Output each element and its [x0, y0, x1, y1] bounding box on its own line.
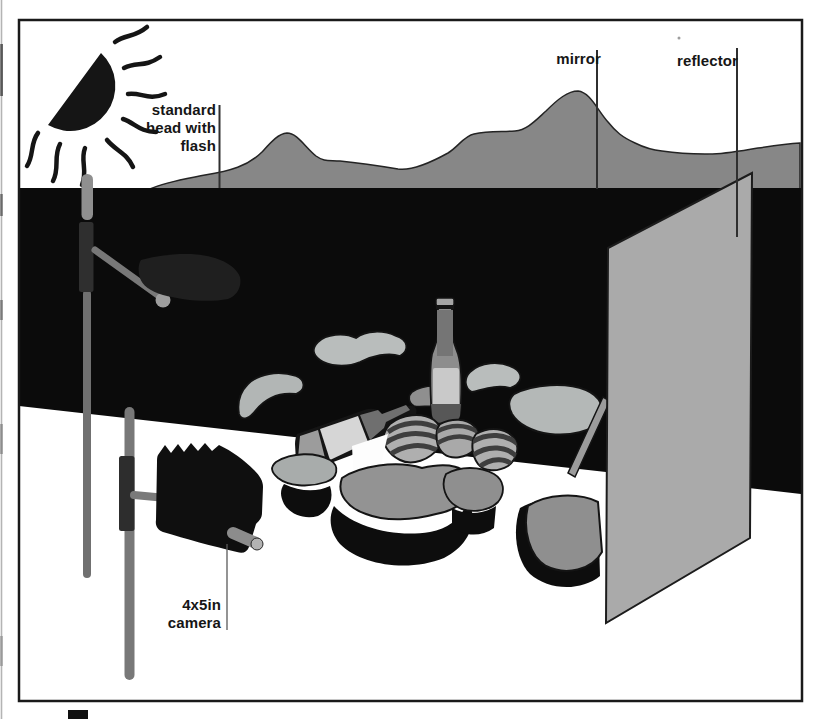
camera-stand-pole — [125, 407, 135, 680]
label-standard-head-with-flash: standard head with flash — [106, 101, 216, 155]
view-camera — [156, 443, 263, 553]
camera-stand — [119, 407, 166, 680]
flash-stand-top-section — [82, 174, 94, 220]
flash-stand-pole — [83, 290, 91, 578]
rock-left-lower — [272, 454, 336, 485]
diagram-page: standard head with flash mirror reflecto… — [0, 0, 818, 719]
label-mirror: mirror — [491, 50, 601, 68]
label-reflector: reflector — [628, 52, 738, 70]
camera-lens-cap — [251, 538, 263, 550]
caption-dropcap-fragment — [68, 710, 88, 719]
flash-stand-clamp-sleeve — [79, 222, 94, 292]
standing-bottle-cap — [436, 298, 454, 306]
page-edge-artifact — [0, 0, 3, 719]
rock-left-shadow — [281, 484, 332, 517]
label-4x5in-camera: 4x5in camera — [111, 596, 221, 632]
dust-speck — [678, 37, 681, 40]
reflector-panel — [606, 173, 752, 623]
rock-mid-right — [444, 468, 503, 511]
rock-bottom-right — [526, 496, 602, 571]
mountain-backdrop — [150, 91, 800, 189]
